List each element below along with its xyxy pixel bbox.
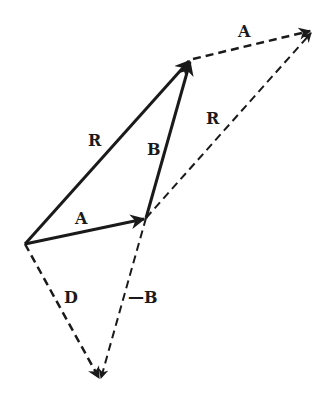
label-B-mid: B	[147, 142, 161, 158]
label-A-bottom: A	[75, 211, 87, 227]
label-negative-B: —B	[128, 290, 158, 306]
vector-A-translated	[193, 31, 310, 59]
label-R-left: R	[88, 133, 101, 149]
vector-diagram	[0, 0, 333, 400]
vector-D	[25, 244, 99, 378]
label-R-right: R	[206, 111, 219, 127]
label-D: D	[64, 290, 78, 306]
label-A-top: A	[238, 24, 250, 40]
